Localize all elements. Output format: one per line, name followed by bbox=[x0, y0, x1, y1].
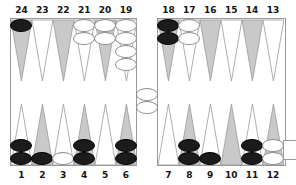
point-triangle-16[interactable] bbox=[199, 19, 222, 83]
point-label-20: 20 bbox=[94, 5, 116, 15]
point-triangle-22[interactable] bbox=[52, 19, 75, 83]
checker-dark-point-6[interactable] bbox=[115, 152, 137, 165]
point-label-13: 13 bbox=[262, 5, 284, 15]
checker-dark-point-4[interactable] bbox=[73, 152, 95, 165]
point-label-17: 17 bbox=[178, 5, 200, 15]
checker-light-point-19[interactable] bbox=[115, 45, 137, 58]
checker-dark-point-6[interactable] bbox=[115, 139, 137, 152]
point-label-11: 11 bbox=[241, 170, 263, 180]
checker-light-point-20[interactable] bbox=[94, 32, 116, 45]
point-label-14: 14 bbox=[241, 5, 263, 15]
checker-dark-point-11[interactable] bbox=[241, 139, 263, 152]
point-label-12: 12 bbox=[262, 170, 284, 180]
point-triangle-5[interactable] bbox=[94, 103, 117, 167]
point-triangle-23[interactable] bbox=[31, 19, 54, 83]
checker-light-point-12[interactable] bbox=[262, 152, 284, 165]
point-triangle-14[interactable] bbox=[241, 19, 264, 83]
bar-checker-light[interactable] bbox=[136, 101, 158, 114]
point-label-4: 4 bbox=[73, 170, 95, 180]
point-label-7: 7 bbox=[157, 170, 179, 180]
point-label-9: 9 bbox=[199, 170, 221, 180]
checker-light-point-21[interactable] bbox=[73, 19, 95, 32]
point-triangle-10[interactable] bbox=[220, 103, 243, 167]
point-label-24: 24 bbox=[10, 5, 32, 15]
checker-light-point-21[interactable] bbox=[73, 32, 95, 45]
bar-checker-light[interactable] bbox=[136, 88, 158, 101]
point-label-16: 16 bbox=[199, 5, 221, 15]
point-label-5: 5 bbox=[94, 170, 116, 180]
checker-light-point-19[interactable] bbox=[115, 32, 137, 45]
point-label-1: 1 bbox=[10, 170, 32, 180]
point-label-10: 10 bbox=[220, 170, 242, 180]
bearoff-tray[interactable] bbox=[283, 140, 296, 160]
point-label-21: 21 bbox=[73, 5, 95, 15]
point-label-23: 23 bbox=[31, 5, 53, 15]
point-label-8: 8 bbox=[178, 170, 200, 180]
point-label-19: 19 bbox=[115, 5, 137, 15]
point-label-2: 2 bbox=[31, 170, 53, 180]
point-triangle-15[interactable] bbox=[220, 19, 243, 83]
checker-dark-point-11[interactable] bbox=[241, 152, 263, 165]
checker-dark-point-4[interactable] bbox=[73, 139, 95, 152]
point-label-22: 22 bbox=[52, 5, 74, 15]
point-label-3: 3 bbox=[52, 170, 74, 180]
checker-light-point-19[interactable] bbox=[115, 58, 137, 71]
point-triangle-13[interactable] bbox=[262, 19, 285, 83]
point-label-15: 15 bbox=[220, 5, 242, 15]
backgammon-board: 242322212019181716151413 123456789101112 bbox=[0, 0, 296, 185]
point-label-18: 18 bbox=[157, 5, 179, 15]
point-triangle-7[interactable] bbox=[157, 103, 180, 167]
point-label-6: 6 bbox=[115, 170, 137, 180]
checker-light-point-20[interactable] bbox=[94, 19, 116, 32]
checker-light-point-12[interactable] bbox=[262, 139, 284, 152]
checker-light-point-19[interactable] bbox=[115, 19, 137, 32]
